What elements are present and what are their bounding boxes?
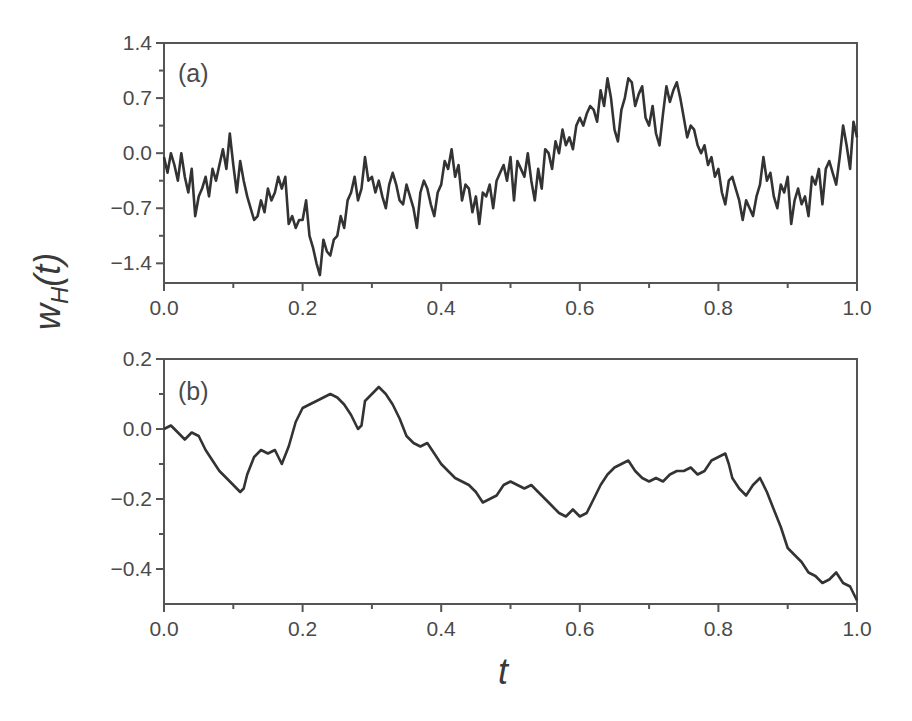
- y-tick-label: −0.2: [111, 487, 152, 510]
- y-tick-label: −1.4: [111, 251, 153, 274]
- y-axis-title-subscript: H: [46, 286, 73, 304]
- x-tick-label: 0.8: [704, 296, 733, 319]
- x-tick-label: 0.4: [427, 296, 457, 319]
- panel-b-ticks: 0.00.20.40.60.81.00.20.0−0.2−0.4: [111, 347, 872, 640]
- y-tick-label: 0.0: [123, 141, 152, 164]
- figure-canvas: 0.00.20.40.60.81.01.40.70.0−0.7−1.4 (a) …: [0, 0, 912, 721]
- x-tick-label: 1.0: [842, 296, 871, 319]
- y-tick-label: −0.7: [111, 196, 152, 219]
- x-tick-label: 0.6: [565, 617, 594, 640]
- panel-a: 0.00.20.40.60.81.01.40.70.0−0.7−1.4 (a): [111, 31, 872, 319]
- y-tick-label: 0.0: [123, 417, 152, 440]
- x-tick-label: 0.2: [288, 617, 317, 640]
- x-tick-label: 0.0: [149, 296, 178, 319]
- x-tick-label: 1.0: [842, 617, 871, 640]
- panel-b-label: (b): [178, 377, 209, 405]
- x-tick-label: 0.8: [704, 617, 733, 640]
- y-tick-label: 0.7: [123, 86, 152, 109]
- x-tick-label: 0.6: [565, 296, 594, 319]
- y-axis-title-main: w: [27, 302, 68, 330]
- x-tick-label: 0.0: [149, 617, 178, 640]
- panel-a-label: (a): [178, 59, 209, 87]
- panel-b-series-line: [164, 387, 857, 601]
- x-axis-title: t: [498, 651, 510, 692]
- panel-b: 0.00.20.40.60.81.00.20.0−0.2−0.4 (b): [111, 347, 872, 640]
- x-tick-label: 0.4: [427, 617, 457, 640]
- y-tick-label: −0.4: [111, 557, 153, 580]
- y-axis-title: wH(t): [27, 253, 73, 330]
- panel-a-series-line: [164, 78, 857, 275]
- y-axis-title-argument: (t): [27, 253, 68, 287]
- y-tick-label: 1.4: [123, 31, 153, 54]
- x-tick-label: 0.2: [288, 296, 317, 319]
- y-tick-label: 0.2: [123, 347, 152, 370]
- panel-a-ticks: 0.00.20.40.60.81.01.40.70.0−0.7−1.4: [111, 31, 872, 319]
